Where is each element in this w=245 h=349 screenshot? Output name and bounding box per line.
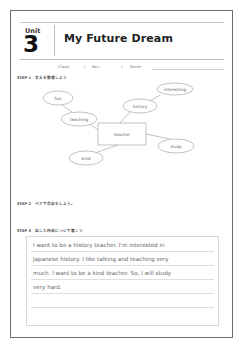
node-teacher-label: teacher [114, 132, 130, 137]
writing-line-4: very hard. [33, 284, 62, 290]
step-3-label: STEP 3 話した内容について書こう [17, 228, 83, 233]
step-2-label: STEP 2 ペアで会話をしよう。 [17, 201, 75, 206]
node-fun-label: fun [55, 96, 62, 101]
writing-line-2: Japanese history. I like talking and tea… [33, 256, 169, 262]
node-kind-label: kind [82, 156, 91, 161]
node-study-label: study [170, 144, 182, 149]
writing-area[interactable] [26, 236, 219, 326]
node-teaching-label: teaching [70, 117, 89, 122]
node-history-label: history [133, 104, 148, 109]
writing-line-1: I want to be a history teacher. I'm inte… [33, 242, 165, 248]
node-interesting-label: interesting [164, 87, 187, 92]
writing-line-3: much. I want to be a kind teacher. So, I… [33, 270, 171, 276]
